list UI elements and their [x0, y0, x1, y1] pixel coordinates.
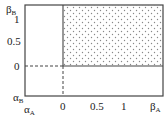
- y-tick-1: 1: [14, 13, 20, 25]
- y-origin-label: αB: [13, 91, 24, 105]
- region-diagram: βB 1 0.5 0 αB αA 0 0.5 1 βA: [0, 0, 168, 116]
- x-tick-0: 0: [60, 100, 66, 112]
- x-tick-1: 1: [121, 100, 127, 112]
- y-tick-0: 0: [14, 60, 20, 72]
- y-tick-0.5: 0.5: [7, 35, 21, 47]
- x-axis-label: βA: [150, 100, 161, 114]
- shaded-region: [63, 5, 163, 66]
- x-tick-0.5: 0.5: [90, 100, 104, 112]
- x-origin-label: αA: [24, 103, 35, 116]
